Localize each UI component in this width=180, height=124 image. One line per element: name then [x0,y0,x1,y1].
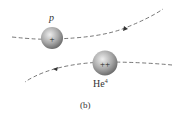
proton-trajectory [12,9,163,39]
figure-caption: (b) [80,100,91,110]
helium-label: He4 [93,78,108,89]
proton-direction-arrow [123,26,128,31]
helium-label-base: He [93,78,105,89]
proton-charge: + [49,34,54,44]
helium-direction-arrow [53,67,58,71]
helium-charge: ++ [100,59,110,69]
helium-label-mass: 4 [105,78,108,84]
proton-label: p [49,12,54,23]
